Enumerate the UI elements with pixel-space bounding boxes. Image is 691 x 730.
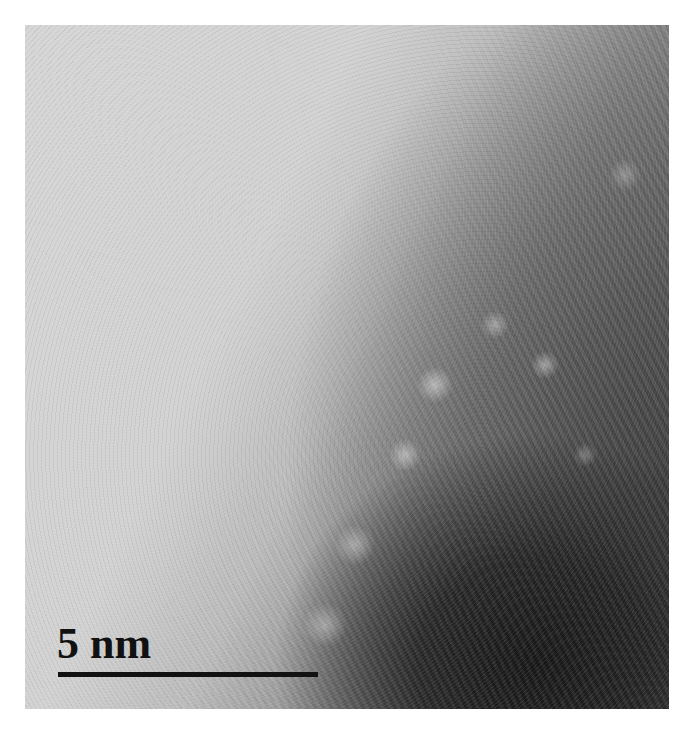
tem-micrograph: 5 nm	[25, 25, 669, 709]
scale-bar	[58, 672, 318, 677]
scale-bar-label: 5 nm	[57, 622, 151, 666]
image-noise	[25, 25, 669, 709]
